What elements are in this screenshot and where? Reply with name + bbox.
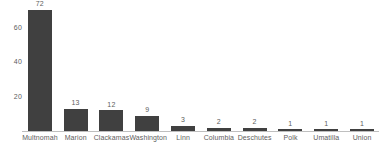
bar-column[interactable]: 9 [135,0,159,131]
bar-slot: 2 [237,0,273,131]
bar-slot: 1 [308,0,344,131]
bar-value-label: 2 [217,118,221,126]
bar-column[interactable]: 13 [64,0,88,131]
x-tick-label: Columbia [201,133,237,142]
y-tick-label: 60 [14,24,22,32]
x-tick-label: Union [344,133,380,142]
bar-value-label: 1 [360,120,364,128]
bar-column[interactable]: 12 [99,0,123,131]
y-tick-label: 40 [14,58,22,66]
bar-column[interactable]: 2 [243,0,267,131]
bar-rect[interactable] [135,116,159,132]
x-tick-label: Polk [273,133,309,142]
bar-value-label: 1 [324,120,328,128]
x-tick-label: Washington [129,133,165,142]
x-tick-label: Multnomah [22,133,58,142]
x-tick-label: Umatilla [308,133,344,142]
plot-area: 7213129322111 [22,0,380,131]
bar-slot: 12 [94,0,130,131]
bar-column[interactable]: 1 [350,0,374,131]
bar-value-label: 13 [72,99,80,107]
bar-slot: 72 [22,0,58,131]
bar-value-label: 2 [253,118,257,126]
bar-column[interactable]: 1 [278,0,302,131]
bar-value-label: 1 [288,120,292,128]
bar-column[interactable]: 3 [171,0,195,131]
x-tick-label: Linn [165,133,201,142]
bar-column[interactable]: 2 [207,0,231,131]
x-axis: MultnomahMarionClackamasWashingtonLinnCo… [22,133,380,147]
x-tick-label: Clackamas [94,133,130,142]
bar-slot: 9 [129,0,165,131]
bar-chart: 204060 7213129322111 MultnomahMarionClac… [0,0,390,154]
x-tick-label: Deschutes [237,133,273,142]
bar-slot: 2 [201,0,237,131]
y-tick-label: 20 [14,93,22,101]
bar-rect[interactable] [99,110,123,131]
bar-column[interactable]: 1 [314,0,338,131]
bar-rect[interactable] [28,10,52,132]
bar-value-label: 72 [36,0,44,8]
bar-value-label: 12 [107,101,115,109]
bar-slot: 1 [273,0,309,131]
bar-slot: 3 [165,0,201,131]
x-tick-label: Marion [58,133,94,142]
bar-rect[interactable] [64,109,88,131]
bar-value-label: 9 [145,106,149,114]
bar-slot: 13 [58,0,94,131]
bar-column[interactable]: 72 [28,0,52,131]
bar-slot: 1 [344,0,380,131]
x-axis-line [22,131,379,132]
bar-value-label: 3 [181,116,185,124]
